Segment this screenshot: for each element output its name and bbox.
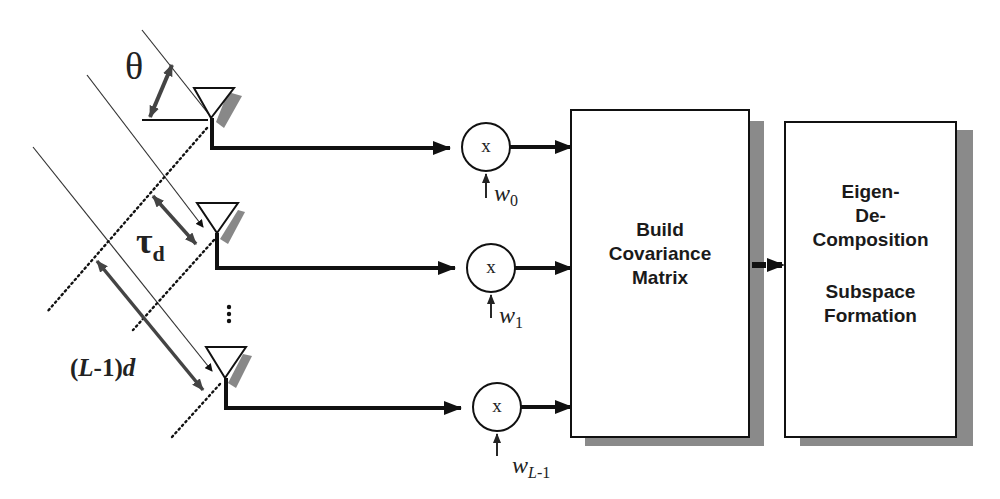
incident-rays bbox=[33, 30, 212, 371]
weight-0-label: w0 bbox=[494, 180, 518, 210]
weight-2-sub-rest: -1 bbox=[537, 464, 550, 481]
multiplier-2-symbol: x bbox=[487, 395, 507, 417]
eigen-line-3: Composition bbox=[785, 228, 956, 252]
covariance-block-label: Build Covariance Matrix bbox=[571, 218, 749, 290]
tau-symbol: τ bbox=[136, 221, 153, 261]
multiplier-0-symbol: x bbox=[476, 135, 496, 157]
weight-2-subscript: L-1 bbox=[528, 464, 550, 481]
multiplier-2 bbox=[473, 383, 572, 456]
diagram-canvas: θ τd (L-1)d x x x w0 w1 wL-1 Build Covar… bbox=[0, 0, 1000, 499]
delay-label: τd bbox=[136, 220, 165, 267]
eigen-spacer bbox=[785, 252, 956, 280]
multiplier-1-symbol: x bbox=[481, 256, 501, 278]
weight-2-sub-L: L bbox=[528, 464, 537, 481]
covariance-line-1: Build bbox=[571, 218, 749, 242]
antenna-1 bbox=[197, 203, 455, 268]
eigen-line-6: Formation bbox=[785, 304, 956, 328]
eigen-line-2: De- bbox=[785, 204, 956, 228]
antenna-2 bbox=[206, 347, 461, 408]
spacing-L: L bbox=[78, 354, 93, 381]
weight-1-symbol: w bbox=[499, 302, 515, 328]
spacing-label: (L-1)d bbox=[70, 354, 135, 382]
weight-0-symbol: w bbox=[494, 180, 510, 206]
spacing-d: d bbox=[123, 354, 136, 381]
covariance-line-3: Matrix bbox=[571, 266, 749, 290]
antenna-0 bbox=[194, 88, 450, 148]
weight-1-label: w1 bbox=[499, 302, 523, 332]
wavefront-lines bbox=[47, 128, 220, 437]
theta-arrow bbox=[150, 65, 172, 117]
tau-subscript: d bbox=[153, 241, 165, 266]
weight-2-label: wL-1 bbox=[512, 452, 550, 482]
spacing-rest: -1) bbox=[94, 354, 123, 381]
eigen-line-1: Eigen- bbox=[785, 180, 956, 204]
weight-0-subscript: 0 bbox=[510, 192, 518, 209]
weight-2-symbol: w bbox=[512, 452, 528, 478]
weight-1-subscript: 1 bbox=[515, 314, 523, 331]
covariance-line-2: Covariance bbox=[571, 242, 749, 266]
ellipsis-icon bbox=[227, 305, 231, 323]
eigen-block-label: Eigen- De- Composition Subspace Formatio… bbox=[785, 180, 956, 328]
theta-label: θ bbox=[125, 44, 143, 88]
eigen-line-5: Subspace bbox=[785, 280, 956, 304]
